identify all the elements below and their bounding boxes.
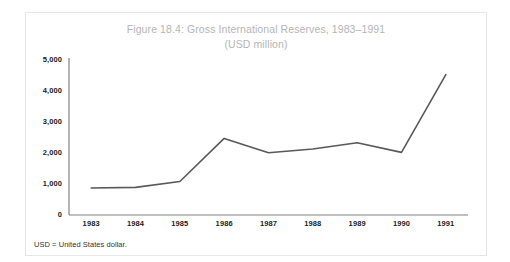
x-tick-label: 1989 [336,219,378,228]
figure-footnote: USD = United States dollar. [34,240,127,249]
x-tick-label: 1990 [381,219,423,228]
x-tick-label: 1985 [159,219,201,228]
x-tick-label: 1991 [425,219,467,228]
x-tick-label: 1983 [70,219,112,228]
x-tick-label: 1984 [115,219,157,228]
y-tick-label: 2,000 [22,148,62,157]
y-tick-label: 0 [22,210,62,219]
y-tick-label: 1,000 [22,179,62,188]
y-tick-label: 5,000 [22,55,62,64]
x-tick-label: 1988 [292,219,334,228]
plot-area: 01,0002,0003,0004,0005,000 1983198419851… [0,0,510,262]
data-series-group [91,75,446,188]
y-tick-label: 3,000 [22,117,62,126]
figure-container: Figure 18.4: Gross International Reserve… [0,0,510,262]
y-tick-label: 4,000 [22,86,62,95]
x-tick-label: 1986 [203,219,245,228]
chart-axes [69,58,468,215]
x-tick-label: 1987 [248,219,290,228]
data-line-gross-international-reserves [91,75,446,188]
